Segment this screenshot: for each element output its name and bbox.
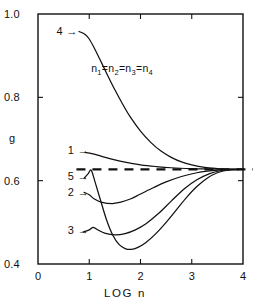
curve-4-label: 4 → (57, 26, 78, 37)
y-axis-label: g (9, 133, 15, 144)
curve-4 (79, 32, 243, 170)
y-tick-label-0.8: 0.8 (4, 92, 20, 103)
curve-5-label: 5 → (68, 171, 89, 182)
y-tick-label-0.4: 0.4 (4, 259, 20, 270)
equal-populations-note: n1=n2=n3=n4 (91, 63, 153, 77)
curve-2-label: 2 → (68, 187, 89, 198)
x-tick-label-3: 3 (189, 271, 195, 282)
x-axis-label: LOG n (104, 288, 146, 300)
x-tick-label-4: 4 (240, 271, 246, 282)
chart-canvas (0, 0, 255, 304)
x-tick-label-1: 1 (86, 271, 92, 282)
curve-1-label: 1 → (68, 145, 89, 156)
y-tick-label-1.0: 1.0 (4, 9, 20, 20)
x-tick-label-2: 2 (138, 271, 144, 282)
x-tick-label-0: 0 (35, 271, 41, 282)
figure: 012341.00.80.60.41 →2 →3 →4 →5 →gLOG nn1… (0, 0, 255, 304)
curve-1 (85, 152, 243, 169)
y-tick-label-0.6: 0.6 (4, 176, 20, 187)
curve-3-label: 3 → (68, 225, 89, 236)
curve-2 (84, 169, 243, 203)
